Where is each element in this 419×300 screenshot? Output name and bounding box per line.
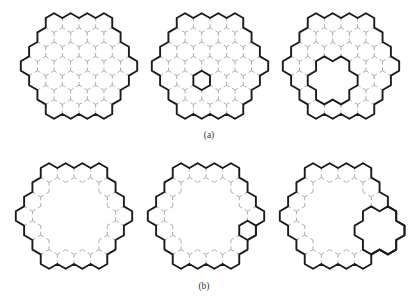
inner-hex-edges: [148, 163, 264, 269]
panel-b1-ring: [16, 163, 132, 269]
cluster-outline: [21, 13, 137, 119]
inner-hex-edges: [280, 163, 388, 269]
row-a-label: (a): [204, 130, 215, 141]
defect-outline: [355, 206, 405, 254]
cluster-outline: [148, 163, 264, 269]
row-b: (b): [16, 163, 405, 292]
inner-hex-edges: [283, 13, 399, 119]
row-b-label: (b): [198, 281, 209, 292]
panel-b2-ring-single-defect: [148, 163, 264, 269]
defect-outline: [193, 71, 210, 90]
inner-hex-edges: [16, 163, 132, 269]
inner-hex-edges: [152, 13, 268, 119]
inner-hex-edges: [21, 13, 137, 119]
row-a: (a): [21, 13, 399, 141]
cluster-outline: [152, 13, 268, 119]
panel-a3-cluster-with-hole: [283, 13, 399, 119]
hexagonal-cluster-figure: (a) (b): [0, 0, 419, 300]
defect-outline: [239, 221, 256, 240]
panel-b3-ring-with-attached-flower: [280, 163, 405, 269]
cluster-outline: [283, 13, 399, 119]
panel-a1-full-cluster: [21, 13, 137, 119]
panel-a2-cluster-single-defect: [152, 13, 268, 119]
cluster-outline: [16, 163, 132, 269]
